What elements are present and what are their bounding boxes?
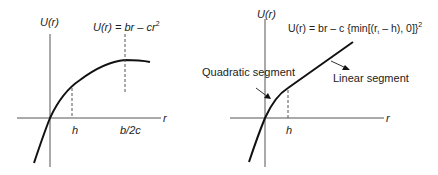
linear-arrowhead-icon [342, 65, 350, 70]
left-x-axis-label: r [163, 113, 167, 124]
right-y-axis-label: U(r) [257, 9, 276, 20]
left-y-axis-label: U(r) [40, 17, 59, 28]
formula-term-b: br [124, 21, 134, 33]
linear-arrow [331, 61, 346, 68]
left-utility-curve [34, 60, 150, 163]
left-tick-peak: b/2c [120, 125, 141, 136]
formula-minus: – [134, 21, 146, 33]
right-tick-h: h [286, 125, 292, 136]
formula-term-c: cr [147, 21, 156, 33]
right-formula: U(r) = br – c {min[(rt – h), 0]}2 [288, 21, 422, 35]
formula-main: U(r) = br – c {min[(r [288, 22, 378, 34]
formula-lhs: U(r) = [93, 21, 124, 33]
linear-segment-label: Linear segment [333, 73, 409, 84]
formula-rest: – h), 0]} [379, 22, 418, 34]
quadratic-segment-label: Quadratic segment [202, 67, 295, 78]
formula-exponent: 2 [418, 21, 422, 28]
left-tick-h: h [72, 125, 78, 136]
right-x-axis-label: r [386, 113, 390, 124]
formula-exponent: 2 [156, 20, 160, 27]
left-formula: U(r) = br – cr2 [93, 20, 160, 33]
